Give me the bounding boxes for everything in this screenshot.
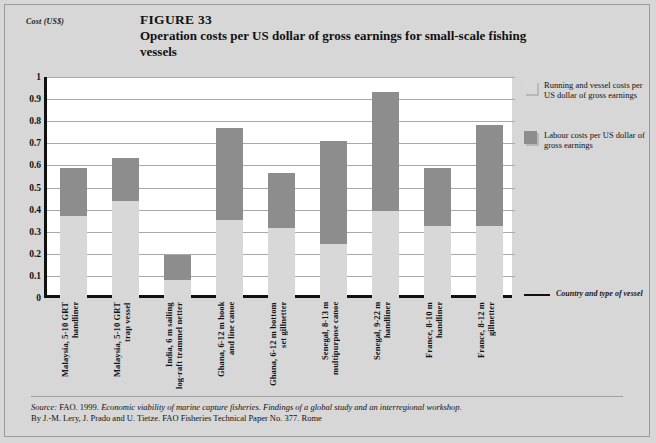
bar-segment-labour-costs (112, 158, 139, 201)
x-axis-title: Country and type of vessel (556, 289, 643, 298)
x-label-slot: Senegal, 8-13 m multipurpose canoe (304, 302, 356, 394)
x-label-slot: Malaysia, 5-10 GRT handliner (44, 302, 96, 394)
y-axis-tick-label: 0.3 (29, 227, 41, 237)
x-axis-tick-label: Senegal, 8-13 m multipurpose canoe (321, 302, 340, 394)
legend: Running and vessel costs per US dollar o… (524, 80, 648, 180)
bar-segment-running-vessel-costs (372, 211, 399, 298)
bar-segment-running-vessel-costs (476, 226, 503, 298)
bar-group (47, 77, 515, 298)
stacked-bar[interactable] (320, 141, 347, 298)
x-label-slot: India, 6 m sailing log-raft trammel nett… (148, 302, 200, 394)
bar-segment-labour-costs (476, 125, 503, 227)
y-axis-title: Cost (US$) (26, 17, 64, 26)
y-axis-tick-label: 1 (36, 72, 41, 82)
source-divider (31, 396, 623, 397)
y-axis-tick-label: 0 (36, 293, 41, 303)
x-axis-title-rule (524, 294, 550, 296)
bar-segment-running-vessel-costs (424, 226, 451, 298)
source-line1-italic: Economic viability of marine capture fis… (101, 402, 462, 412)
stacked-bar[interactable] (424, 168, 451, 298)
stacked-bar[interactable] (476, 125, 503, 298)
bar-segment-running-vessel-costs (320, 244, 347, 298)
legend-item[interactable]: Labour costs per US dollar of gross earn… (524, 130, 648, 150)
source-line2: By J.-M. Lery, J. Prado and U. Tietze. F… (31, 413, 322, 423)
y-axis-tick-label: 0.7 (29, 138, 41, 148)
bar-segment-labour-costs (372, 92, 399, 210)
figure-number: FIGURE 33 (140, 12, 530, 27)
x-label-slot: Ghana, 6-12 m bottom set gillnetter (252, 302, 304, 394)
bar-slot (411, 77, 463, 298)
y-axis-tick-label: 0.6 (29, 160, 41, 170)
legend-label: Running and vessel costs per US dollar o… (544, 80, 648, 100)
bar-segment-labour-costs (320, 141, 347, 244)
x-label-slot: Senegal, 9-22 m handliner (356, 302, 408, 394)
bar-segment-running-vessel-costs (268, 228, 295, 298)
plot-area: 00.10.20.30.40.50.60.70.80.91 (44, 77, 512, 298)
legend-item[interactable]: Running and vessel costs per US dollar o… (524, 80, 648, 100)
stacked-bar[interactable] (372, 92, 399, 298)
bar-slot (359, 77, 411, 298)
x-axis-tick-label: France, 8-10 m handliner (425, 302, 444, 394)
y-axis-tick-label: 0.4 (29, 205, 41, 215)
bar-slot (99, 77, 151, 298)
x-label-slot: France, 8-10 m handliner (408, 302, 460, 394)
x-axis-tick-label: India, 6 m sailing log-raft trammel nett… (165, 302, 184, 394)
legend-label: Labour costs per US dollar of gross earn… (544, 130, 648, 150)
bar-segment-running-vessel-costs (216, 220, 243, 298)
legend-swatch-icon (524, 131, 537, 144)
figure-header: FIGURE 33 Operation costs per US dollar … (140, 12, 530, 59)
bar-slot (255, 77, 307, 298)
figure-page: Cost (US$) FIGURE 33 Operation costs per… (0, 0, 656, 443)
bar-segment-running-vessel-costs (164, 280, 191, 298)
stacked-bar[interactable] (112, 158, 139, 298)
bar-slot (307, 77, 359, 298)
x-label-slot: Malaysia, 5-10 GRT trap vessel (96, 302, 148, 394)
x-label-slot: France, 8-12 m gillnetter (460, 302, 512, 394)
x-axis-labels: Malaysia, 5-10 GRT handlinerMalaysia, 5-… (44, 302, 512, 394)
bar-segment-running-vessel-costs (112, 201, 139, 298)
x-axis-tick-label: Senegal, 9-22 m handliner (373, 302, 392, 394)
plot-canvas: 00.10.20.30.40.50.60.70.80.91 (44, 77, 512, 298)
y-axis-tick-label: 0.1 (29, 271, 41, 281)
x-label-slot: Ghana, 6-12 m hook and line canoe (200, 302, 252, 394)
y-axis-tick-label: 0.5 (29, 183, 41, 193)
figure-title: Operation costs per US dollar of gross e… (140, 28, 530, 59)
bar-slot (203, 77, 255, 298)
bar-segment-labour-costs (268, 173, 295, 228)
bar-segment-labour-costs (216, 128, 243, 220)
source-note: Source: FAO. 1999. Economic viability of… (31, 402, 627, 424)
stacked-bar[interactable] (60, 168, 87, 298)
source-label: Source: (31, 402, 57, 412)
y-axis-tick-label: 0.8 (29, 116, 41, 126)
x-axis-tick-label: Ghana, 6-12 m hook and line canoe (217, 302, 236, 394)
bar-segment-labour-costs (424, 168, 451, 227)
x-axis-tick-label: Malaysia, 5-10 GRT trap vessel (113, 302, 132, 394)
y-axis-tick-label: 0.9 (29, 94, 41, 104)
x-axis-tick-label: Malaysia, 5-10 GRT handliner (61, 302, 80, 394)
bar-slot (463, 77, 515, 298)
bar-slot (47, 77, 99, 298)
stacked-bar[interactable] (216, 128, 243, 298)
bar-segment-running-vessel-costs (60, 216, 87, 298)
stacked-bar[interactable] (268, 173, 295, 298)
x-axis-tick-label: Ghana, 6-12 m bottom set gillnetter (269, 302, 288, 394)
y-axis-tick-label: 0.2 (29, 249, 41, 259)
source-line1-a: FAO. 1999. (59, 402, 101, 412)
bar-slot (151, 77, 203, 298)
bar-segment-labour-costs (164, 255, 191, 280)
bar-segment-labour-costs (60, 168, 87, 217)
x-axis-tick-label: France, 8-12 m gillnetter (477, 302, 496, 394)
legend-swatch-icon (524, 81, 537, 94)
stacked-bar[interactable] (164, 255, 191, 298)
